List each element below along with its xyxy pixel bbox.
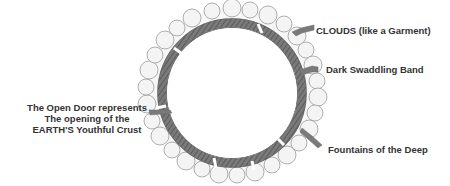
earth <box>167 28 297 158</box>
fountains-label: Fountains of the Deep <box>328 144 428 155</box>
open-door-label: The Open Door represents The opening of … <box>24 102 150 135</box>
open-door-line-3: EARTH'S Youthful Crust <box>24 124 150 135</box>
open-door-line-2: The opening of the <box>24 113 150 124</box>
clouds-label: CLOUDS (like a Garment) <box>316 25 431 36</box>
band-label: Dark Swaddling Band <box>326 64 424 75</box>
open-door-line-1: The Open Door represents <box>24 102 150 113</box>
